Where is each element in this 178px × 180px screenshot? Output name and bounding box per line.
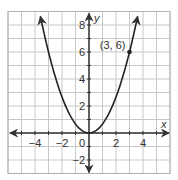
y-tick-label: 4 <box>79 73 85 85</box>
y-tick-label: 2 <box>79 100 85 112</box>
y-tick-label: −2 <box>72 154 85 166</box>
y-axis-label: y <box>93 12 101 24</box>
y-tick-label: 8 <box>79 19 85 31</box>
chart: x y 0 −4 −2 2 4 8 6 4 2 −2 (3, 6) <box>0 0 178 180</box>
y-tick-label: 6 <box>79 46 85 58</box>
point-label: (3, 6) <box>100 39 126 51</box>
x-axis-label: x <box>160 118 167 130</box>
x-tick-label: 2 <box>113 137 119 149</box>
x-tick-label: 4 <box>140 137 146 149</box>
data-point <box>127 50 132 55</box>
x-tick-label: −2 <box>56 137 69 149</box>
x-tick-label: −4 <box>29 137 42 149</box>
origin-label: 0 <box>79 137 85 149</box>
labels: x y 0 −4 −2 2 4 8 6 4 2 −2 (3, 6) <box>29 12 167 166</box>
